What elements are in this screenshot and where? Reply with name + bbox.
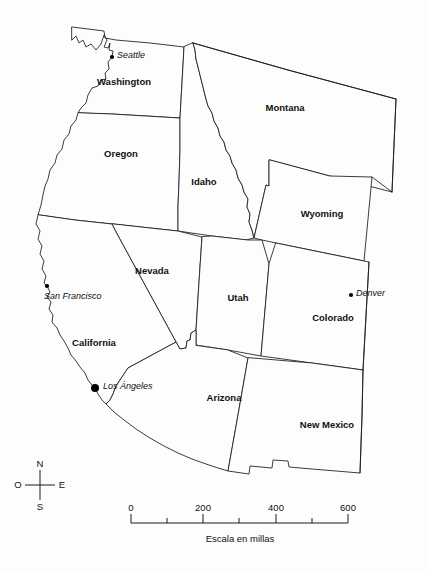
scale-tick-label-0: 0	[128, 502, 133, 513]
scale-bar: 0 200 400 600 Escala en millas	[128, 502, 356, 544]
city-label-denver: Denver	[356, 288, 386, 298]
state-shape-colorado	[261, 243, 369, 370]
state-label-wyoming: Wyoming	[301, 208, 344, 219]
state-label-new-mexico: New Mexico	[300, 419, 355, 430]
state-label-oregon: Oregon	[104, 148, 138, 159]
state-label-washington: Washington	[97, 76, 151, 87]
map-canvas: Washington Oregon Montana Idaho Wyoming …	[0, 0, 427, 572]
scale-tick-label-400: 400	[268, 502, 284, 513]
state-label-utah: Utah	[227, 292, 248, 303]
state-label-idaho: Idaho	[191, 176, 217, 187]
compass-label-north: N	[37, 458, 44, 469]
state-shape-oregon	[38, 113, 180, 231]
state-label-california: California	[72, 337, 117, 348]
city-dot-seattle	[110, 55, 114, 59]
city-label-san-francisco: San Francisco	[44, 291, 102, 301]
compass-label-west: O	[14, 479, 21, 490]
state-shape-washington	[72, 27, 184, 118]
scale-caption: Escala en millas	[206, 533, 275, 544]
state-label-nevada: Nevada	[135, 265, 170, 276]
compass-label-east: E	[59, 479, 65, 490]
state-shapes	[36, 27, 396, 474]
city-dot-los-angeles	[91, 384, 99, 392]
state-shape-new-mexico	[228, 358, 363, 474]
city-label-los-angeles: Los Ángeles	[103, 381, 153, 391]
compass-rose: N O E S	[14, 458, 65, 512]
city-dot-denver	[349, 293, 353, 297]
compass-label-south: S	[37, 501, 43, 512]
city-dot-san-francisco	[45, 284, 49, 288]
state-label-colorado: Colorado	[312, 312, 354, 323]
state-label-montana: Montana	[265, 102, 305, 113]
scale-tick-label-600: 600	[340, 502, 356, 513]
western-us-map: Washington Oregon Montana Idaho Wyoming …	[0, 0, 427, 572]
city-label-seattle: Seattle	[117, 50, 145, 60]
scale-tick-label-200: 200	[195, 502, 211, 513]
state-label-arizona: Arizona	[207, 392, 243, 403]
